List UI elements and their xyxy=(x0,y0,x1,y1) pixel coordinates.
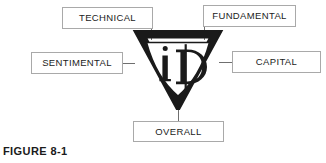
node-box-technical[interactable]: TECHNICAL xyxy=(62,7,153,29)
node-label-fundamental: FUNDAMENTAL xyxy=(212,11,286,21)
id-diamond-logo xyxy=(132,30,224,110)
figure-caption: FIGURE 8-1 xyxy=(3,145,68,157)
figure-container: TECHNICAL FUNDAMENTAL SENTIMENTAL CAPITA… xyxy=(0,0,326,163)
node-label-capital: CAPITAL xyxy=(256,57,297,67)
node-box-overall[interactable]: OVERALL xyxy=(133,121,224,142)
monogram-d-flourish xyxy=(185,44,187,89)
node-label-overall: OVERALL xyxy=(155,127,201,137)
monogram-i-dot xyxy=(163,46,168,51)
node-box-fundamental[interactable]: FUNDAMENTAL xyxy=(203,5,296,27)
node-box-sentimental[interactable]: SENTIMENTAL xyxy=(31,52,123,74)
node-label-technical: TECHNICAL xyxy=(79,13,136,23)
node-label-sentimental: SENTIMENTAL xyxy=(42,58,112,68)
node-box-capital[interactable]: CAPITAL xyxy=(232,51,321,73)
